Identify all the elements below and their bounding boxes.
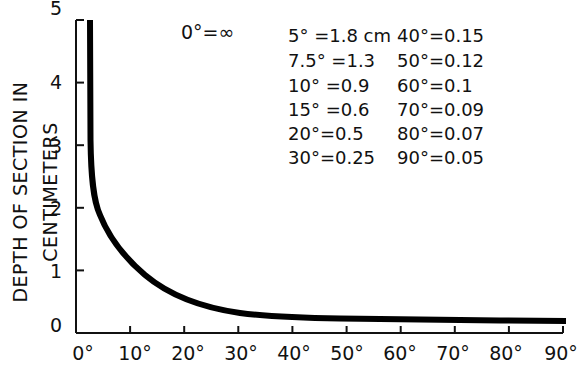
annotation-col1-row: 10° =0.9 (288, 76, 369, 96)
x-tick-label: 80° (481, 342, 531, 364)
y-tick-label: 1 (46, 261, 62, 281)
y-tick-label: 0 (46, 315, 62, 335)
annotation-col1-row: 30°=0.25 (288, 148, 375, 168)
x-tick-label: 0° (58, 342, 108, 364)
annotation-col2-row: 70°=0.09 (397, 100, 484, 120)
annotation-col2-row: 90°=0.05 (397, 148, 484, 168)
y-tick-label: 3 (46, 136, 62, 156)
annotation-col1-row: 20°=0.5 (288, 124, 364, 144)
annotation-col2-row: 60°=0.1 (397, 76, 473, 96)
x-tick-label: 20° (163, 342, 213, 364)
y-tick-label: 4 (46, 72, 62, 92)
annotation-col1-row: 7.5° =1.3 (288, 51, 375, 71)
y-tick-label: 5 (46, 0, 62, 18)
y-tick-marks (76, 20, 84, 270)
x-tick-label: 10° (110, 342, 160, 364)
x-tick-label: 60° (375, 342, 425, 364)
y-axis-label: DEPTH OF SECTION IN CENTIMETERS (5, 22, 35, 362)
annotation-col1-row: 5° =1.8 cm (288, 26, 391, 46)
x-tick-label: 90° (536, 342, 586, 364)
x-tick-label: 50° (322, 342, 372, 364)
x-tick-label: 70° (428, 342, 478, 364)
annotation-col2-row: 40°=0.15 (397, 26, 484, 46)
x-tick-marks (130, 326, 563, 333)
annotation-col2-row: 80°=0.07 (397, 124, 484, 144)
annotation-col1-row: 15° =0.6 (288, 100, 369, 120)
annotation-col2-row: 50°=0.12 (397, 51, 484, 71)
x-tick-label: 30° (216, 342, 266, 364)
infinity-annotation: 0°=∞ (181, 22, 234, 42)
x-tick-label: 40° (269, 342, 319, 364)
y-tick-label: 2 (46, 198, 62, 218)
